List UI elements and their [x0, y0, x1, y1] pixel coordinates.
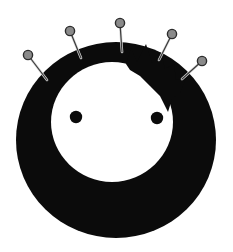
- left-eye: [70, 111, 82, 123]
- pin-1-far-left-head-icon: [23, 50, 32, 59]
- pin-cushion-face-artwork: [0, 0, 233, 252]
- right-eye: [151, 112, 163, 124]
- image-canvas: A thick black ring shaped like a round f…: [0, 0, 233, 252]
- ring-group: [16, 42, 216, 238]
- pin-2-upper-left-head-icon: [65, 26, 74, 35]
- pin-4-upper-right-head-icon: [167, 29, 176, 38]
- pin-5-far-right-head-icon: [197, 56, 206, 65]
- pin-3-top-center-head-icon: [115, 18, 124, 27]
